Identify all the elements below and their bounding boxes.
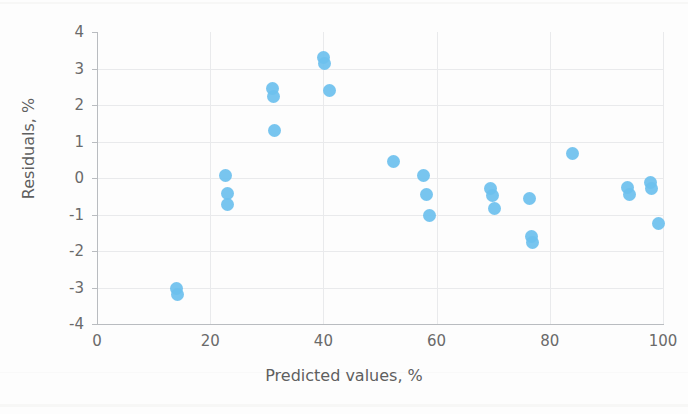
y-axis-tick-label: -2: [44, 244, 84, 259]
gridline-horizontal: [97, 251, 663, 252]
x-axis-tick-label: 0: [92, 334, 102, 349]
data-point: [323, 84, 336, 97]
y-axis-tick: [92, 251, 97, 252]
data-point: [645, 182, 658, 195]
data-point: [219, 169, 232, 182]
y-axis-tick-label: -4: [44, 317, 84, 332]
data-point: [566, 147, 579, 160]
x-axis-tick-label: 20: [201, 334, 220, 349]
y-axis-tick: [92, 288, 97, 289]
gridline-horizontal: [97, 178, 663, 179]
y-axis-tick: [92, 178, 97, 179]
data-point: [318, 57, 331, 70]
y-axis-tick-label: 1: [44, 135, 84, 150]
y-axis-tick: [92, 69, 97, 70]
data-point: [423, 209, 436, 222]
x-axis-tick-labels: 020406080100: [0, 334, 688, 356]
gridline-horizontal: [97, 215, 663, 216]
data-point: [171, 288, 184, 301]
x-axis-tick-label: 40: [314, 334, 333, 349]
x-axis-tick-label: 60: [427, 334, 446, 349]
data-point: [267, 90, 280, 103]
y-axis-tick-label: -3: [44, 281, 84, 296]
data-point: [221, 198, 234, 211]
data-point: [488, 202, 501, 215]
scan-artifact-bottom: [0, 404, 688, 407]
data-point: [623, 188, 636, 201]
plot-area: [97, 32, 663, 324]
y-axis-tick: [92, 105, 97, 106]
y-axis-tick: [92, 32, 97, 33]
data-point: [523, 192, 536, 205]
x-axis-line: [97, 324, 664, 325]
y-axis-tick-label: 2: [44, 98, 84, 113]
scan-artifact-top: [0, 2, 688, 4]
x-axis-tick-label: 100: [649, 334, 678, 349]
y-axis-tick: [92, 215, 97, 216]
gridline-horizontal: [97, 142, 663, 143]
y-axis-title: Residuals, %: [19, 59, 38, 239]
y-axis-tick: [92, 142, 97, 143]
data-point: [526, 236, 539, 249]
y-axis-tick-label: 0: [44, 171, 84, 186]
gridline-horizontal: [97, 105, 663, 106]
data-point: [417, 169, 430, 182]
gridline-horizontal: [97, 69, 663, 70]
y-axis-line: [97, 32, 98, 325]
data-point: [387, 155, 400, 168]
y-axis-tick: [92, 324, 97, 325]
y-axis-tick-label: -1: [44, 208, 84, 223]
x-axis-title: Predicted values, %: [0, 366, 688, 385]
data-point: [420, 188, 433, 201]
y-axis-tick-label: 3: [44, 62, 84, 77]
data-point: [486, 189, 499, 202]
gridline-vertical: [663, 32, 664, 324]
data-point: [268, 124, 281, 137]
scatter-chart: 43210-1-2-3-4 020406080100 Residuals, % …: [0, 0, 688, 414]
y-axis-tick-label: 4: [44, 25, 84, 40]
x-axis-tick-label: 80: [540, 334, 559, 349]
